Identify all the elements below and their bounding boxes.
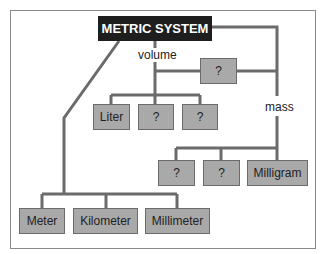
mass-child-unknown-1: ? bbox=[158, 160, 195, 186]
length-child-millimeter: Millimeter bbox=[145, 208, 210, 234]
length-child-meter: Meter bbox=[19, 208, 65, 234]
mass-child-milligram: Milligram bbox=[247, 160, 308, 186]
volume-child-unknown-1: ? bbox=[138, 104, 174, 130]
volume-parent-unknown-box: ? bbox=[200, 58, 237, 84]
volume-label: volume bbox=[136, 48, 179, 62]
length-child-kilometer: Kilometer bbox=[73, 208, 138, 234]
volume-child-unknown-2: ? bbox=[182, 104, 218, 130]
metric-system-title: METRIC SYSTEM bbox=[98, 16, 212, 41]
volume-child-liter: Liter bbox=[93, 104, 130, 130]
mass-child-unknown-2: ? bbox=[203, 160, 240, 186]
mass-label: mass bbox=[263, 100, 296, 114]
